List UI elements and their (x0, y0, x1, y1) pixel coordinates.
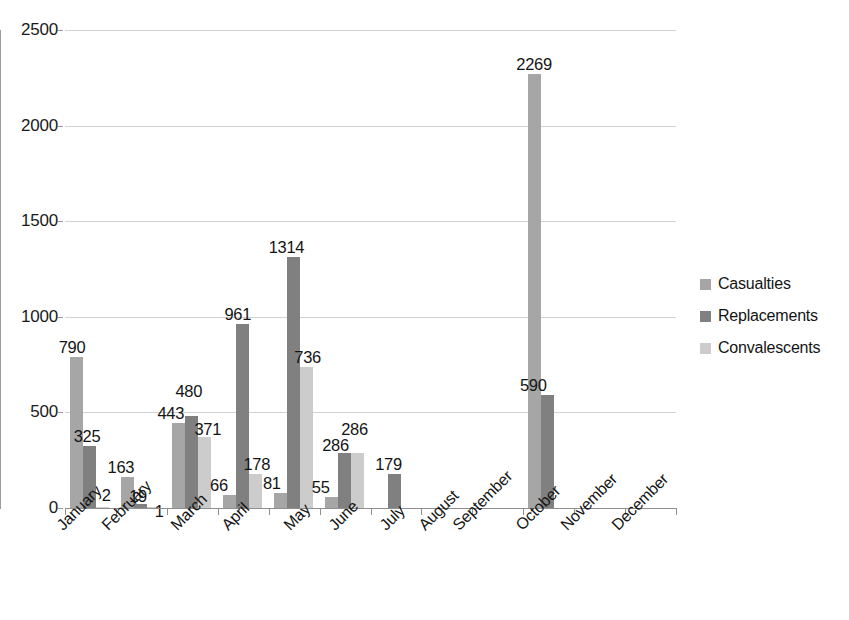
bar (274, 493, 287, 508)
bar (325, 497, 338, 508)
legend-label: Replacements (718, 308, 818, 324)
bar-value-label: 55 (312, 479, 330, 495)
legend-swatch-icon (700, 279, 711, 290)
bar (236, 324, 249, 508)
bar (287, 257, 300, 508)
legend-label: Casualties (718, 276, 791, 292)
plot-area: 7903252163191443480371669611788113147365… (65, 30, 676, 508)
bar-value-label: 325 (74, 428, 101, 444)
x-axis-tick-mark (269, 508, 270, 515)
gridline (65, 317, 676, 318)
bar (528, 74, 541, 508)
legend-item[interactable]: Replacements (700, 300, 845, 332)
y-axis: 05001000150020002500 (0, 0, 58, 620)
bar-value-label: 790 (59, 339, 86, 355)
y-axis-tick-mark (58, 412, 63, 413)
bar-value-label: 1314 (269, 239, 305, 255)
bar-value-label: 286 (322, 437, 349, 453)
x-axis-tick-mark (676, 508, 677, 515)
y-axis-tick-mark (58, 30, 63, 31)
y-axis-line (0, 30, 1, 509)
bar-value-label: 1 (155, 503, 164, 519)
y-axis-tick-mark (58, 221, 63, 222)
y-axis-tick-label: 2500 (4, 21, 58, 38)
y-axis-tick-label: 1000 (4, 308, 58, 325)
bar-value-label: 163 (108, 459, 135, 475)
gridline (65, 126, 676, 127)
legend-label: Convalescents (718, 340, 820, 356)
y-axis-tick-mark (58, 317, 63, 318)
y-axis-tick-label: 2000 (4, 117, 58, 134)
legend-item[interactable]: Casualties (700, 268, 845, 300)
bar-value-label: 590 (520, 377, 547, 393)
bar-value-label: 178 (243, 456, 270, 472)
bar (300, 367, 313, 508)
bar-value-label: 443 (157, 405, 184, 421)
bar-value-label: 736 (294, 349, 321, 365)
y-axis-tick-mark (58, 126, 63, 127)
x-axis-tick-mark (371, 508, 372, 515)
bar (249, 474, 262, 508)
x-axis-tick-mark (218, 508, 219, 515)
bar-value-label: 371 (194, 421, 221, 437)
legend-swatch-icon (700, 311, 711, 322)
gridline (65, 30, 676, 31)
legend-item[interactable]: Convalescents (700, 332, 845, 364)
x-axis-tick-mark (320, 508, 321, 515)
bar-value-label: 2269 (516, 56, 552, 72)
chart-legend: CasualtiesReplacementsConvalescents (700, 268, 845, 364)
bar-value-label: 66 (210, 477, 228, 493)
bar-value-label: 81 (263, 475, 281, 491)
bar-chart: 05001000150020002500 7903252163191443480… (0, 0, 849, 620)
y-axis-tick-label: 1500 (4, 212, 58, 229)
legend-swatch-icon (700, 343, 711, 354)
y-axis-tick-mark (58, 508, 63, 509)
x-axis-tick-mark (167, 508, 168, 515)
gridline (65, 221, 676, 222)
bar (172, 423, 185, 508)
bar-value-label: 961 (224, 306, 251, 322)
y-axis-tick-label: 500 (4, 403, 58, 420)
bar-value-label: 286 (341, 421, 368, 437)
bar-value-label: 480 (175, 383, 202, 399)
bar-value-label: 179 (375, 456, 402, 472)
y-axis-tick-label: 0 (4, 499, 58, 516)
